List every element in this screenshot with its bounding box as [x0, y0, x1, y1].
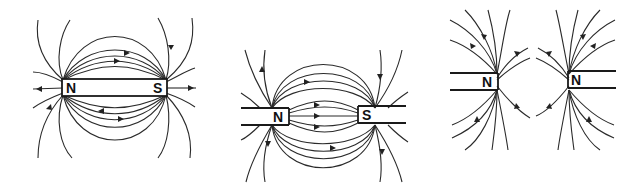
field-lines — [450, 10, 615, 150]
south-pole-label: S — [362, 107, 371, 123]
north-pole-label: N — [273, 109, 283, 125]
panel-like-poles: N N — [450, 10, 616, 150]
field-lines — [241, 50, 408, 182]
panel-bar-magnet: N S — [33, 18, 196, 158]
panel-unlike-poles: N S — [241, 50, 408, 182]
north-pole-label: N — [66, 80, 76, 96]
bar-magnet-body — [62, 79, 167, 96]
north-pole-label-right: N — [571, 72, 581, 88]
south-pole-label: S — [153, 80, 162, 96]
north-pole-label-left: N — [482, 74, 492, 90]
